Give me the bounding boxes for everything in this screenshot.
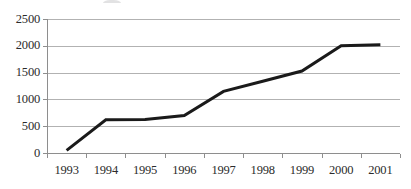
x-axis-tick xyxy=(322,154,323,158)
x-axis-tick-label: 1996 xyxy=(172,164,196,177)
x-axis-tick-label: 2000 xyxy=(329,164,353,177)
x-axis-tick xyxy=(282,154,283,158)
y-axis-tick-label: 500 xyxy=(2,120,40,133)
gridline xyxy=(47,126,400,127)
y-axis-tick xyxy=(43,73,47,74)
y-axis-tick-labels: 25002000150010005000 xyxy=(0,0,40,189)
x-axis-tick-label: 1995 xyxy=(133,164,157,177)
y-axis-tick-label: 2000 xyxy=(2,39,40,52)
plot-area xyxy=(47,19,400,153)
x-axis-line xyxy=(47,153,400,154)
y-axis-tick xyxy=(43,46,47,47)
x-axis-tick-label: 2001 xyxy=(368,164,392,177)
x-axis-tick-label: 1993 xyxy=(55,164,79,177)
gridline xyxy=(47,19,400,20)
y-axis-tick-label: 1000 xyxy=(2,93,40,106)
x-axis-tick-label: 1999 xyxy=(290,164,314,177)
cropped-title-remnant xyxy=(103,0,121,3)
y-axis-tick-label: 0 xyxy=(2,147,40,160)
y-axis-tick-label: 1500 xyxy=(2,66,40,79)
y-axis-tick xyxy=(43,19,47,20)
line-chart: 25002000150010005000 1993199419951996199… xyxy=(0,0,411,189)
y-axis-tick xyxy=(43,99,47,100)
y-axis-tick xyxy=(43,126,47,127)
gridline xyxy=(47,46,400,47)
x-axis-tick xyxy=(165,154,166,158)
x-axis-tick xyxy=(204,154,205,158)
x-axis-tick xyxy=(47,154,48,158)
x-axis-tick xyxy=(243,154,244,158)
y-axis-line xyxy=(47,19,48,154)
x-axis-tick xyxy=(86,154,87,158)
gridline xyxy=(47,73,400,74)
y-axis-tick-label: 2500 xyxy=(2,13,40,26)
x-axis-tick xyxy=(400,154,401,158)
x-axis-tick-label: 1997 xyxy=(211,164,235,177)
x-axis-tick-label: 1994 xyxy=(94,164,118,177)
x-axis-tick xyxy=(125,154,126,158)
x-axis-tick xyxy=(361,154,362,158)
x-axis-tick-labels: 199319941995199619971998199920002001 xyxy=(47,164,400,184)
gridline xyxy=(47,99,400,100)
x-axis-tick-label: 1998 xyxy=(251,164,275,177)
